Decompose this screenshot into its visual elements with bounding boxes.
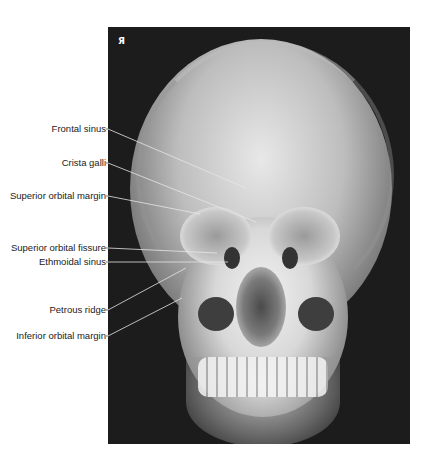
label-frontal-sinus: Frontal sinus [52, 123, 106, 135]
label-petrous-ridge: Petrous ridge [49, 304, 106, 316]
label-ethmoidal-sinus: Ethmoidal sinus [39, 256, 106, 268]
label-superior-orbital-fissure: Superior orbital fissure [11, 242, 106, 254]
label-crista-galli: Crista galli [62, 157, 106, 169]
annotation-labels: Frontal sinus Crista galli Superior orbi… [0, 0, 423, 454]
label-inferior-orbital-margin: Inferior orbital margin [16, 330, 106, 342]
label-superior-orbital-margin: Superior orbital margin [10, 190, 106, 202]
